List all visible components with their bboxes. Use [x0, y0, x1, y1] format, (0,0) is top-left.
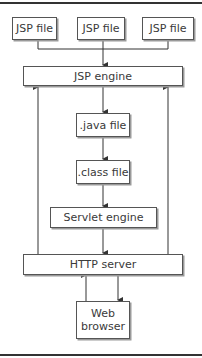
- jsp-file-box-1: JSP file: [12, 17, 57, 40]
- jsp-file-box-3: JSP file: [142, 17, 194, 40]
- jsp-engine-box: JSP engine: [23, 66, 183, 86]
- jsp-file-box-2: JSP file: [77, 17, 125, 40]
- web-browser-label-line2: browser: [81, 320, 125, 333]
- web-browser-label-line1: Web: [91, 307, 115, 320]
- web-browser-box: Web browser: [76, 301, 130, 339]
- java-file-label: .java file: [80, 119, 127, 132]
- jsp-file-label-2: JSP file: [82, 22, 119, 35]
- servlet-engine-box: Servlet engine: [50, 207, 157, 228]
- java-file-box: .java file: [76, 113, 130, 137]
- class-file-label: .class file: [77, 166, 128, 179]
- jsp-file-label-3: JSP file: [149, 22, 186, 35]
- class-file-box: .class file: [76, 160, 130, 184]
- servlet-engine-label: Servlet engine: [64, 211, 144, 224]
- jsp-file-label-1: JSP file: [16, 22, 53, 35]
- jsp-engine-label: JSP engine: [74, 70, 132, 83]
- http-server-box: HTTP server: [23, 254, 183, 275]
- frame-bottom-rule: [0, 354, 202, 356]
- http-server-label: HTTP server: [70, 258, 136, 271]
